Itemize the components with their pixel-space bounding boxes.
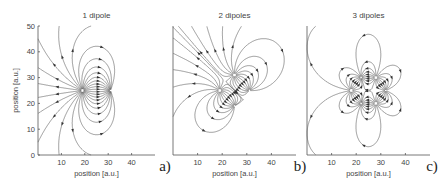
- arrow-marker: [386, 78, 390, 82]
- field-line: [173, 38, 220, 89]
- panel-label: a): [159, 158, 171, 175]
- arrow-marker: [211, 117, 215, 121]
- x-tick-label: 30: [377, 158, 385, 167]
- chart-title: 3 dipoles: [352, 11, 384, 20]
- arrow-marker: [366, 77, 370, 80]
- arrow-marker: [98, 112, 102, 115]
- arrow-marker: [309, 115, 313, 119]
- arrow-marker: [192, 82, 196, 85]
- arrow-marker: [216, 110, 220, 114]
- arrow-marker: [98, 58, 102, 61]
- arrow-marker: [55, 100, 59, 104]
- y-tick-label: 40: [27, 47, 35, 56]
- y-tick-label: 30: [27, 73, 35, 82]
- field-lines: [38, 26, 115, 155]
- arrow-marker: [60, 55, 64, 59]
- axes: [307, 26, 430, 155]
- arrow-marker: [97, 102, 101, 105]
- x-tick-label: 20: [81, 158, 89, 167]
- x-axis-label: position [a.u.]: [212, 169, 257, 178]
- arrow-marker: [195, 64, 199, 68]
- arrow-marker: [97, 90, 101, 93]
- x-tick-label: 10: [327, 158, 335, 167]
- arrow-marker: [55, 77, 59, 81]
- arrow-marker: [231, 44, 234, 48]
- y-axis-label: position [a.u.]: [11, 68, 20, 113]
- x-tick-label: 30: [104, 158, 112, 167]
- arrow-marker: [365, 108, 369, 111]
- arrow-marker: [365, 70, 369, 73]
- arrow-marker: [71, 48, 74, 52]
- panel-b: 102030402 dipolesposition [a.u.]b): [173, 11, 306, 178]
- field-line: [178, 26, 233, 76]
- arrow-marker: [255, 69, 259, 73]
- panel-c: 102030403 dipolesposition [a.u.]c): [307, 11, 438, 178]
- field-line: [356, 105, 381, 147]
- arrow-marker: [309, 62, 313, 66]
- arrow-marker: [97, 80, 101, 83]
- field-line: [231, 26, 241, 73]
- x-tick-label: 10: [193, 158, 201, 167]
- x-tick-label: 40: [127, 158, 135, 167]
- figure: 10203040010203040501 dipoleposition [a.u…: [0, 0, 446, 184]
- arrow-marker: [60, 122, 64, 126]
- arrow-marker: [97, 106, 101, 109]
- x-tick-label: 20: [352, 158, 360, 167]
- arrow-marker: [71, 129, 74, 133]
- x-tick-label: 40: [401, 158, 409, 167]
- arrow-marker: [366, 80, 370, 83]
- x-axis-label: position [a.u.]: [74, 169, 119, 178]
- arrow-marker: [97, 72, 101, 75]
- arrow-marker: [213, 48, 217, 52]
- arrow-marker: [193, 73, 197, 77]
- arrow-marker: [205, 49, 209, 53]
- arrow-marker: [96, 96, 100, 99]
- arrow-marker: [100, 45, 104, 49]
- arrow-marker: [97, 93, 101, 96]
- x-tick-label: 30: [243, 158, 251, 167]
- arrow-marker: [264, 62, 268, 66]
- field-line: [356, 34, 381, 76]
- arrow-marker: [280, 49, 284, 53]
- arrow-marker: [366, 103, 370, 106]
- y-tick-label: 20: [27, 99, 35, 108]
- field-line: [173, 90, 218, 117]
- x-tick-label: 20: [218, 158, 226, 167]
- arrow-marker: [98, 66, 102, 69]
- arrow-marker: [100, 132, 104, 136]
- arrow-marker: [97, 98, 101, 101]
- x-tick-label: 10: [57, 158, 65, 167]
- arrow-marker: [96, 83, 100, 86]
- y-tick-label: 10: [27, 125, 35, 134]
- field-lines: [307, 26, 402, 155]
- arrow-marker: [97, 76, 101, 79]
- axes: [38, 26, 155, 155]
- arrow-marker: [202, 129, 206, 133]
- field-line: [307, 91, 350, 155]
- arrow-marker: [97, 85, 101, 88]
- arrow-marker: [366, 99, 370, 102]
- chart-title: 2 dipoles: [218, 11, 250, 20]
- panel-label: b): [294, 158, 307, 175]
- chart-title: 1 dipole: [82, 11, 111, 20]
- arrow-marker: [365, 73, 369, 76]
- arrow-marker: [365, 105, 369, 108]
- y-tick-label: 0: [31, 151, 35, 160]
- arrow-marker: [97, 88, 101, 91]
- x-axis-label: position [a.u.]: [346, 169, 391, 178]
- field-line: [307, 26, 350, 90]
- panel-label: c): [426, 158, 438, 175]
- field-line: [173, 84, 218, 90]
- arrow-marker: [386, 98, 390, 102]
- field-lines: [173, 26, 284, 133]
- y-tick-label: 50: [27, 22, 35, 31]
- panel-a: 10203040010203040501 dipoleposition [a.u…: [11, 11, 171, 178]
- arrow-marker: [98, 120, 102, 123]
- x-tick-label: 40: [267, 158, 275, 167]
